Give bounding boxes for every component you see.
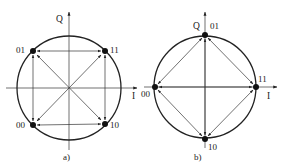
label-00-b: 00 [141,89,151,99]
caption-b: b) [194,152,202,162]
label-01-b: 01 [210,21,219,31]
point-10-a [102,121,108,127]
point-01-b [202,32,208,38]
q-axis-label-a: Q [56,14,63,24]
label-10-b: 10 [208,142,218,152]
transition-arrows-b [158,38,253,136]
i-axis-label-a: I [132,91,135,101]
i-axis-label-b: I [267,91,270,101]
point-00-b [152,84,158,90]
q-axis-label-b: Q [193,21,200,31]
label-11-a: 11 [110,45,119,55]
label-10-a: 10 [110,120,120,130]
diagram-a: 01 11 00 10 Q I a) [6,12,137,162]
point-01-a [30,48,36,54]
point-11-b [253,84,259,90]
point-11-a [102,48,108,54]
diagram-b: 01 11 00 10 Q I b) [141,12,277,162]
qpsk-constellation-figure: 01 11 00 10 Q I a) 01 11 00 10 [0,0,290,168]
point-00-a [30,122,36,128]
label-00-a: 00 [16,120,26,130]
caption-a: a) [63,152,70,162]
label-01-a: 01 [16,45,25,55]
label-11-b: 11 [258,74,267,84]
